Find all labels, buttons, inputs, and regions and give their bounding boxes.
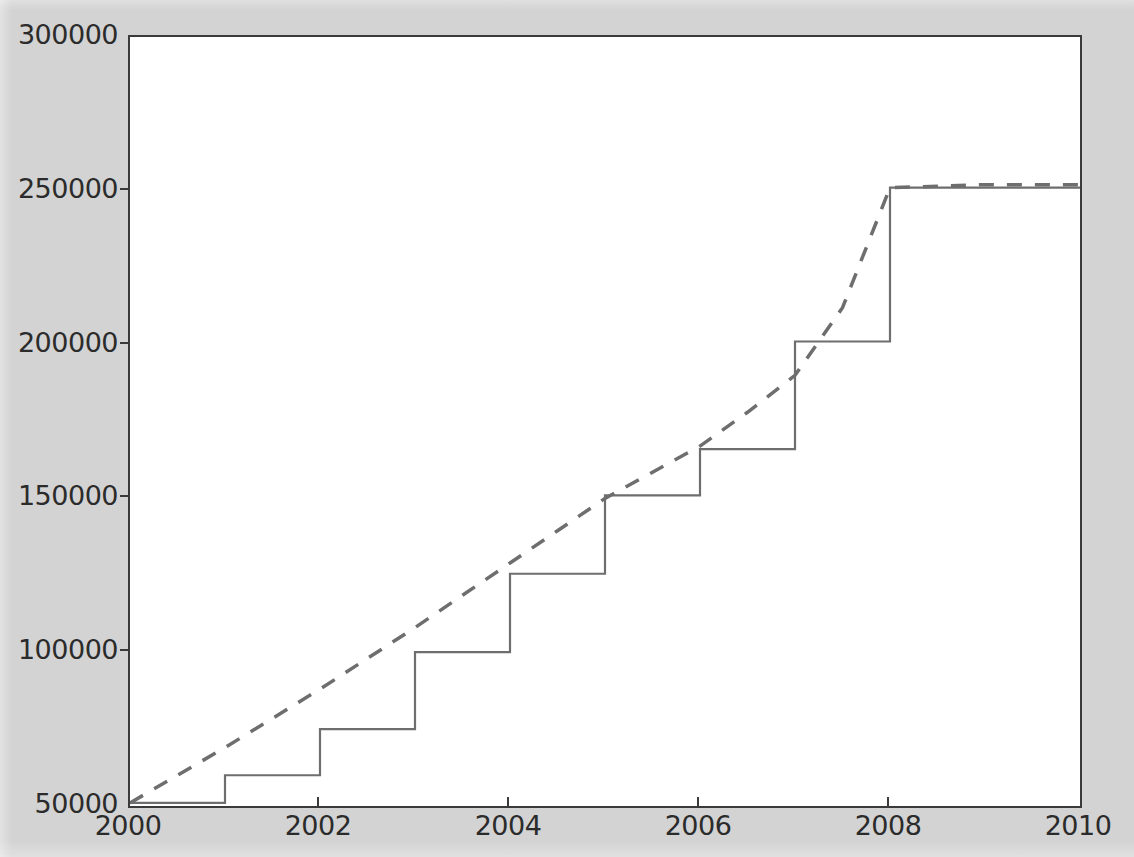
plot-lines-svg <box>130 37 1080 806</box>
plot-area <box>128 35 1082 808</box>
x-axis-tick-label: 2004 <box>448 812 568 839</box>
x-axis-tick-mark <box>317 797 319 806</box>
y-axis-tick-label: 100000 <box>18 636 118 663</box>
x-axis-tick-mark <box>697 797 699 806</box>
y-axis-tick-label: 150000 <box>18 482 118 509</box>
smooth-dashed-series-line <box>130 185 1080 803</box>
step-solid-series-line <box>130 188 1080 803</box>
x-axis-tick-mark <box>887 797 889 806</box>
y-axis-tick-label: 200000 <box>18 329 118 356</box>
x-axis-tick-label: 2008 <box>828 812 948 839</box>
y-axis-tick-labels: 30000025000020000015000010000050000 <box>0 0 118 857</box>
x-axis-tick-labels: 200020022004200620082010 <box>0 812 1134 852</box>
x-axis-tick-mark <box>507 797 509 806</box>
x-axis-tick-label: 2002 <box>258 812 378 839</box>
x-axis-tick-label: 2010 <box>1018 812 1134 839</box>
y-axis-tick-label: 250000 <box>18 175 118 202</box>
figure-canvas: 30000025000020000015000010000050000 2000… <box>0 0 1134 857</box>
y-axis-tick-label: 300000 <box>18 21 118 48</box>
x-axis-tick-label: 2006 <box>638 812 758 839</box>
x-axis-tick-label: 2000 <box>68 812 188 839</box>
